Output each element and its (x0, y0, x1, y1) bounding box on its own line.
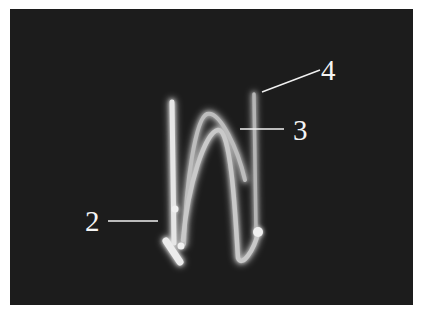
callout-label-3: 3 (293, 114, 308, 146)
light-trail-photo: 4 3 2 (0, 0, 424, 321)
photo-background (10, 9, 413, 305)
trail-right-vertical (254, 94, 256, 232)
callout-label-4: 4 (321, 54, 336, 86)
trail-left-vertical (172, 102, 174, 243)
light-point-2 (172, 206, 179, 213)
callout-label-2: 2 (85, 205, 100, 237)
light-point-right (253, 227, 263, 237)
light-point-bottom (178, 243, 185, 250)
